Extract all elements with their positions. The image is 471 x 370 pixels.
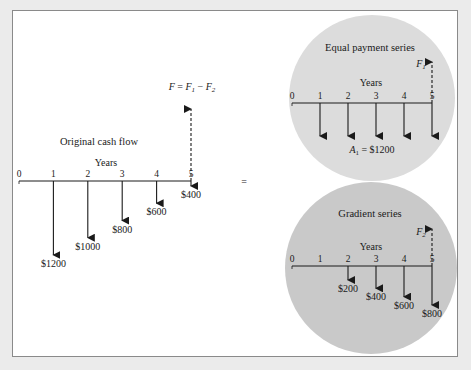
gradient-axis-label: Years — [360, 241, 382, 252]
original-tick-label: 2 — [85, 169, 90, 179]
gradient-tick-label: 0 — [290, 254, 295, 264]
equal-payment-tick-label: 1 — [318, 91, 323, 101]
original-cash-flow-label: $1000 — [75, 241, 100, 252]
original-cash-flow-label: $800 — [112, 224, 132, 235]
gradient-cash-flow-label: $400 — [366, 291, 386, 302]
gradient-cash-flow-label: $200 — [338, 283, 358, 294]
equal-payment-title: Equal payment series — [325, 42, 415, 53]
original-cash-flow-label: $400 — [181, 189, 201, 200]
original-axis-label: Years — [95, 157, 117, 168]
original-tick-label: 1 — [51, 169, 56, 179]
cash-flow-diagram: Original cash flow Years F = F1 − F2 012… — [0, 0, 471, 370]
gradient-cash-flow-label: $800 — [422, 308, 442, 319]
gradient-tick-label: 2 — [346, 254, 351, 264]
original-tick-label: 3 — [120, 169, 125, 179]
gradient-tick-label: 4 — [402, 254, 407, 264]
equals-sign: = — [241, 176, 247, 187]
original-title: Original cash flow — [60, 136, 139, 147]
gradient-title: Gradient series — [338, 208, 401, 219]
original-cash-flow-label: $1200 — [41, 258, 66, 269]
equal-payment-tick-label: 2 — [346, 91, 351, 101]
equal-payment-tick-label: 4 — [402, 91, 407, 101]
original-tick-label: 0 — [17, 169, 22, 179]
gradient-tick-label: 3 — [374, 254, 379, 264]
gradient-cash-flow-label: $600 — [394, 300, 414, 311]
gradient-tick-label: 1 — [318, 254, 323, 264]
original-cash-flow-diagram: Original cash flow Years F = F1 − F2 012… — [17, 81, 216, 269]
equal-payment-tick-label: 3 — [374, 91, 379, 101]
original-tick-label: 4 — [154, 169, 159, 179]
original-cash-flow-label: $600 — [147, 206, 167, 217]
equal-payment-axis-label: Years — [360, 77, 382, 88]
future-equation: F = F1 − F2 — [168, 81, 216, 94]
equal-payment-tick-label: 0 — [290, 91, 295, 101]
